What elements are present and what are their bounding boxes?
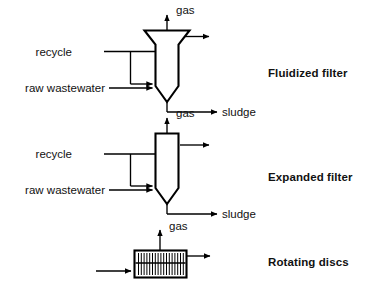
rotating-discs-process-label: Rotating discs [268, 256, 349, 268]
process-flow-diagram: gas sludge recycle raw wastewater Fluidi… [0, 0, 373, 292]
expanded-recycle-label: recycle [36, 148, 72, 160]
expanded-raw-wastewater-label: raw wastewater [25, 184, 105, 196]
unit-rotating-discs: gas Rotating discs [96, 220, 349, 278]
expanded-sludge-stream [167, 203, 217, 214]
discs-gas-label: gas [169, 220, 188, 232]
unit-fluidized-filter: gas sludge recycle raw wastewater Fluidi… [25, 4, 348, 118]
fluidized-sludge-label: sludge [222, 106, 256, 118]
fluidized-gas-label: gas [176, 4, 195, 16]
diagram-canvas: gas sludge recycle raw wastewater Fluidi… [0, 0, 373, 292]
fluidized-filter-process-label: Fluidized filter [268, 67, 348, 79]
expanded-vessel-outline [156, 134, 179, 205]
fluidized-vessel-outline [145, 31, 190, 103]
fluidized-recycle-stream [104, 52, 155, 85]
fluidized-recycle-label: recycle [36, 46, 72, 58]
expanded-sludge-label: sludge [222, 208, 256, 220]
fluidized-raw-wastewater-label: raw wastewater [25, 82, 105, 94]
unit-expanded-filter: gas sludge recycle raw wastewater Expand… [25, 107, 353, 220]
expanded-gas-label: gas [176, 107, 195, 119]
expanded-recycle-stream [104, 154, 155, 186]
expanded-filter-process-label: Expanded filter [268, 171, 353, 183]
